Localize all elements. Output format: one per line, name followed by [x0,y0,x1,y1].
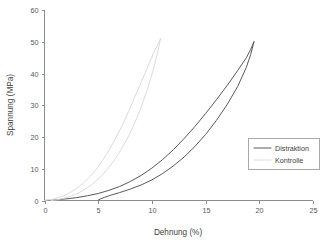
y-tick-label: 50 [31,38,39,47]
stress-strain-chart: 0102030405060 0510152025 Dehnung (%) Spa… [0,0,325,242]
y-tick-label: 40 [31,70,39,79]
x-axis-title: Dehnung (%) [154,228,203,237]
x-tick-label: 20 [256,206,264,215]
legend: Distraktion Kontrolle [249,139,320,170]
y-tick-label: 60 [31,6,39,15]
y-tick-label: 10 [31,165,39,174]
x-tick-label: 25 [310,206,318,215]
y-tick-label: 30 [31,101,39,110]
x-tick-label: 10 [149,206,157,215]
x-tick-label: 0 [44,206,48,215]
legend-label-kontrolle: Kontrolle [275,156,303,165]
y-tick-label: 0 [35,197,39,206]
y-tick-label: 20 [31,133,39,142]
y-axis-title: Spannung (MPa) [6,74,15,136]
x-tick-label: 15 [203,206,211,215]
chart-figure: 0102030405060 0510152025 Dehnung (%) Spa… [0,0,325,242]
chart-background [0,0,325,242]
x-tick-label: 5 [97,206,101,215]
legend-label-distraktion: Distraktion [275,144,309,153]
